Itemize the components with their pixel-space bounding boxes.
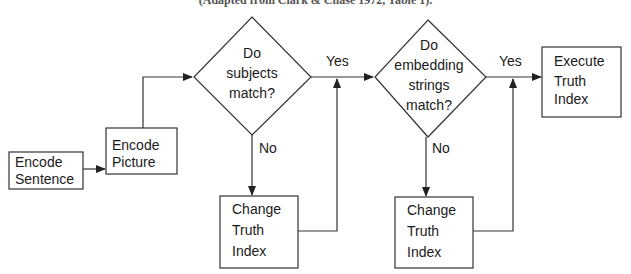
subjects-decision-label-2: subjects <box>226 65 277 81</box>
change-2-label-1: Change <box>407 202 456 218</box>
change-truth-index-box-1: Change Truth Index <box>220 196 298 268</box>
change-1-label-2: Truth <box>232 222 264 238</box>
yes-label-1: Yes <box>326 53 349 69</box>
embedding-decision-label-4: match? <box>406 97 452 113</box>
execute-label-3: Index <box>554 91 588 107</box>
encode-sentence-box: Encode Sentence <box>9 152 83 189</box>
flowchart: Encode Sentence Encode Picture Do subjec… <box>0 0 631 274</box>
execute-truth-index-box: Execute Truth Index <box>542 47 621 117</box>
encode-picture-label-1: Encode <box>112 137 160 153</box>
arrow-picture-to-subjects-decision <box>143 77 192 128</box>
execute-label-2: Truth <box>554 73 586 89</box>
arrow-change-1-return <box>298 79 337 231</box>
subjects-decision-label-3: match? <box>229 85 275 101</box>
execute-label-1: Execute <box>554 53 605 69</box>
embedding-strings-match-decision: Do embedding strings match? <box>375 20 486 137</box>
arrow-change-2-return <box>473 79 513 231</box>
embedding-decision-label-1: Do <box>420 37 438 53</box>
change-1-label-3: Index <box>232 243 266 259</box>
embedding-decision-label-3: strings <box>408 77 449 93</box>
change-truth-index-box-2: Change Truth Index <box>395 197 473 268</box>
change-2-label-2: Truth <box>407 223 439 239</box>
embedding-decision-label-2: embedding <box>394 57 463 73</box>
subjects-decision-label-1: Do <box>243 45 261 61</box>
encode-sentence-label-1: Encode <box>15 154 63 170</box>
no-label-1: No <box>259 140 277 156</box>
subjects-match-decision: Do subjects match? <box>194 17 311 135</box>
no-label-2: No <box>432 140 450 156</box>
yes-label-2: Yes <box>499 53 522 69</box>
change-2-label-3: Index <box>407 244 441 260</box>
encode-sentence-label-2: Sentence <box>15 171 74 187</box>
change-1-label-1: Change <box>232 201 281 217</box>
encode-picture-label-2: Picture <box>112 154 156 170</box>
encode-picture-box: Encode Picture <box>106 128 177 174</box>
